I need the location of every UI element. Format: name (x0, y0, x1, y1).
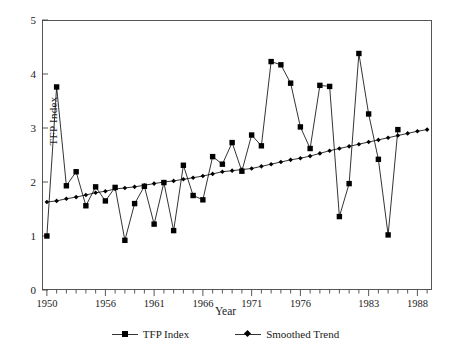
chart-root: TFP Index 012345 19501956196119661971197… (0, 0, 451, 353)
legend-label-tfp-index: TFP Index (143, 328, 189, 340)
chart-legend: TFP Index Smoothed Trend (0, 328, 451, 340)
x-axis-title: Year (0, 305, 451, 317)
legend-item-smoothed-trend: Smoothed Trend (235, 328, 339, 340)
square-marker-icon (112, 329, 138, 339)
legend-item-tfp-index: TFP Index (112, 328, 189, 340)
legend-label-smoothed-trend: Smoothed Trend (266, 328, 339, 340)
diamond-marker-icon (235, 329, 261, 339)
x-axis-tick-labels: 19501956196119661971197619831988 (0, 0, 451, 353)
